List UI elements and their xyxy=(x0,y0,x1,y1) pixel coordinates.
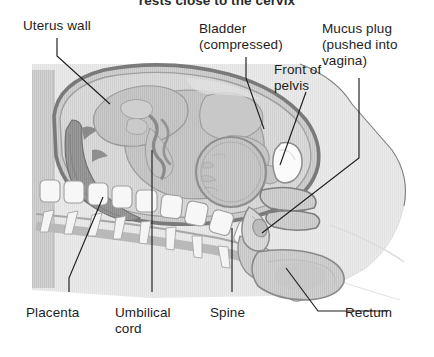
label-umbilical-line1: Umbilical xyxy=(115,305,171,321)
bladder-structure xyxy=(273,142,302,183)
label-umbilical-line2: cord xyxy=(115,321,142,337)
label-bladder-line2: (compressed) xyxy=(199,37,283,53)
label-mucus-line1: Mucus plug xyxy=(322,21,392,37)
abdominal-wall xyxy=(32,70,54,288)
label-front-line2: pelvis xyxy=(274,78,309,94)
label-uterus-wall: Uterus wall xyxy=(23,18,91,34)
label-placenta: Placenta xyxy=(26,305,79,321)
label-bladder-line1: Bladder xyxy=(199,21,246,37)
label-spine: Spine xyxy=(210,305,245,321)
anatomical-diagram xyxy=(0,0,434,357)
label-front-line1: Front of xyxy=(274,62,321,78)
label-rectum: Rectum xyxy=(345,305,392,321)
label-mucus-line2: (pushed into xyxy=(322,37,398,53)
label-mucus-line3: vagina) xyxy=(322,53,367,69)
